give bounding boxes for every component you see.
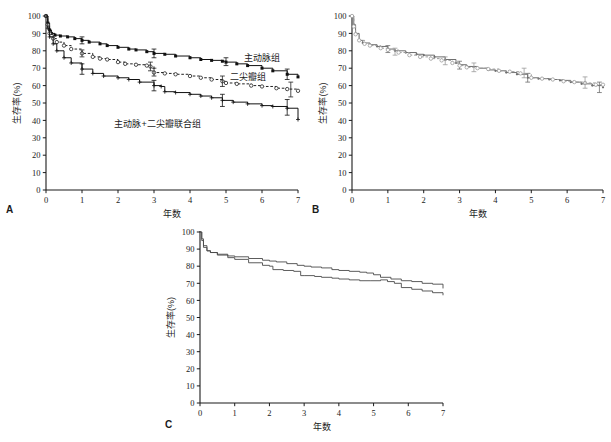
x-tick-label: 3 xyxy=(152,195,156,205)
x-tick-label: 3 xyxy=(302,408,306,418)
data-series xyxy=(200,232,443,288)
series-marker xyxy=(386,48,389,51)
y-tick-label: 90 xyxy=(186,244,195,254)
series-annotation: 主动脉组 xyxy=(244,52,280,63)
series-marker xyxy=(476,67,479,70)
series-marker xyxy=(494,70,496,72)
y-tick-label: 60 xyxy=(186,296,195,306)
series-marker xyxy=(296,89,299,92)
x-tick-label: 0 xyxy=(44,195,48,205)
y-tick-label: 0 xyxy=(342,185,346,195)
y-tick-label: 40 xyxy=(338,116,347,126)
series-marker xyxy=(260,85,263,88)
series-marker xyxy=(465,66,468,69)
series-marker xyxy=(117,46,120,49)
data-series xyxy=(350,14,604,88)
panel-b: 010203040506070809010001234567年数生存率(%) xyxy=(308,0,611,222)
y-tick-label: 80 xyxy=(338,46,347,56)
series-line xyxy=(352,16,603,87)
series-marker xyxy=(106,44,109,47)
series-marker xyxy=(210,78,213,81)
series-marker xyxy=(51,42,55,46)
y-tick-label: 60 xyxy=(338,81,347,91)
survival-curve-figure: 010203040506070809010001234567年数生存率(%)主动… xyxy=(0,0,611,442)
y-tick-label: 0 xyxy=(190,398,194,408)
x-tick-label: 7 xyxy=(601,195,605,205)
series-marker xyxy=(106,58,109,61)
series-marker xyxy=(210,59,213,62)
y-tick-label: 100 xyxy=(334,11,347,21)
series-marker xyxy=(440,59,443,62)
series-marker xyxy=(250,84,253,87)
series-marker xyxy=(145,50,148,53)
series-marker xyxy=(350,14,353,17)
y-tick-label: 10 xyxy=(338,168,347,178)
x-tick-label: 1 xyxy=(386,195,390,205)
series-marker xyxy=(134,63,137,66)
series-marker xyxy=(297,75,300,78)
y-tick-label: 90 xyxy=(32,29,41,39)
y-tick-label: 0 xyxy=(36,185,40,195)
series-marker xyxy=(423,54,425,56)
y-tick-label: 60 xyxy=(32,81,41,91)
x-tick-label: 4 xyxy=(337,408,342,418)
x-tick-label: 1 xyxy=(233,408,237,418)
series-marker xyxy=(261,67,264,70)
series-marker xyxy=(363,42,366,45)
y-axis-label: 生存率(%) xyxy=(11,83,22,124)
panel-a-letter: A xyxy=(6,204,13,215)
y-tick-label: 10 xyxy=(186,381,195,391)
series-marker xyxy=(163,72,166,75)
series-marker xyxy=(163,90,167,94)
x-tick-label: 3 xyxy=(457,195,461,205)
series-marker xyxy=(124,62,127,65)
series-marker xyxy=(66,35,69,38)
series-marker xyxy=(429,57,432,60)
series-marker xyxy=(408,53,411,56)
y-tick-label: 30 xyxy=(32,133,41,143)
series-marker xyxy=(159,84,163,88)
series-marker xyxy=(296,118,300,122)
y-tick-label: 80 xyxy=(186,261,195,271)
series-marker xyxy=(286,87,289,90)
series-marker xyxy=(594,83,597,86)
series-marker xyxy=(271,69,274,72)
series-marker xyxy=(91,55,94,58)
series-marker xyxy=(174,73,177,76)
series-marker xyxy=(55,49,59,53)
y-tick-label: 90 xyxy=(338,29,347,39)
y-tick-label: 50 xyxy=(338,98,347,108)
series-marker xyxy=(62,44,65,47)
series-marker xyxy=(174,55,177,58)
series-marker xyxy=(551,78,554,81)
series-marker xyxy=(102,74,106,78)
series-annotation: 主动脉+二尖瓣联合组 xyxy=(114,118,200,129)
series-marker xyxy=(163,53,166,56)
series-marker xyxy=(418,55,421,58)
x-tick-label: 6 xyxy=(565,195,569,205)
panel-c-letter: C xyxy=(165,419,172,430)
series-marker xyxy=(379,46,382,49)
series-marker xyxy=(497,69,500,72)
x-tick-label: 6 xyxy=(406,408,410,418)
series-marker xyxy=(138,80,142,84)
data-series xyxy=(200,232,443,295)
x-axis-label: 年数 xyxy=(163,208,181,219)
series-marker xyxy=(357,39,360,42)
x-tick-label: 7 xyxy=(441,408,445,418)
error-bar xyxy=(285,100,290,116)
series-marker xyxy=(573,80,576,83)
series-marker xyxy=(508,70,511,73)
x-tick-label: 1 xyxy=(80,195,84,205)
series-marker xyxy=(354,33,357,36)
panel-c: 010203040506070809010001234567年数生存率(%) xyxy=(130,222,460,442)
series-marker xyxy=(99,42,102,45)
data-series xyxy=(45,15,300,80)
y-tick-label: 80 xyxy=(32,46,41,56)
series-marker xyxy=(580,83,582,85)
x-axis-label: 年数 xyxy=(469,208,487,219)
series-marker xyxy=(189,56,192,59)
x-tick-label: 5 xyxy=(224,195,228,205)
x-tick-label: 5 xyxy=(371,408,375,418)
series-marker xyxy=(275,87,278,90)
